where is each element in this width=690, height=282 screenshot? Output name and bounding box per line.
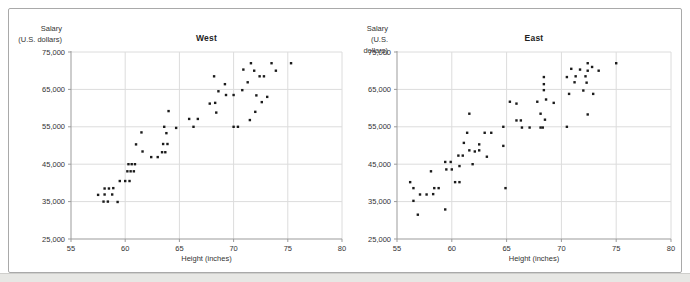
data-point (444, 161, 446, 163)
svg-text:65: 65 (502, 244, 510, 253)
data-point (478, 149, 480, 151)
svg-text:25,000: 25,000 (368, 235, 391, 244)
data-point (108, 187, 110, 189)
data-point (444, 208, 446, 210)
data-point (237, 126, 239, 128)
data-point (539, 113, 541, 115)
data-point (544, 118, 546, 120)
data-point (474, 150, 476, 152)
data-point (175, 127, 177, 129)
data-point (290, 62, 292, 64)
data-point (566, 76, 568, 78)
data-point (566, 126, 568, 128)
data-point (504, 187, 506, 189)
panel-title-east: East (397, 33, 671, 43)
data-point (543, 89, 545, 91)
data-point (520, 119, 522, 121)
data-point (573, 81, 575, 83)
data-point (591, 66, 593, 68)
data-point (451, 168, 453, 170)
data-point (164, 151, 166, 153)
data-point (266, 96, 268, 98)
data-point (246, 81, 248, 83)
data-point (209, 102, 211, 104)
data-point (166, 143, 168, 145)
data-point (275, 70, 277, 72)
data-point (419, 193, 421, 195)
data-point (486, 156, 488, 158)
data-point (116, 201, 118, 203)
data-point (425, 193, 427, 195)
svg-text:65,000: 65,000 (368, 85, 391, 94)
data-point (579, 68, 581, 70)
data-point (103, 193, 105, 195)
svg-text:80: 80 (667, 244, 675, 253)
svg-text:45,000: 45,000 (42, 160, 65, 169)
data-point (150, 156, 152, 158)
data-point (253, 70, 255, 72)
data-point (255, 94, 257, 96)
svg-text:80: 80 (338, 244, 346, 253)
data-point (536, 101, 538, 103)
data-point (468, 113, 470, 115)
data-point (242, 68, 244, 70)
data-point (466, 132, 468, 134)
data-point (107, 200, 109, 202)
svg-text:55,000: 55,000 (368, 122, 391, 131)
data-point (161, 151, 163, 153)
data-point (128, 180, 130, 182)
data-point (215, 111, 217, 113)
data-point (261, 101, 263, 103)
data-point (592, 93, 594, 95)
data-point (131, 163, 133, 165)
data-point (433, 187, 435, 189)
svg-text:70: 70 (557, 244, 565, 253)
data-point (412, 200, 414, 202)
y-axis-title-west: Salary(U.S. dollars) (9, 23, 62, 45)
svg-text:35,000: 35,000 (42, 197, 65, 206)
svg-text:60: 60 (121, 244, 129, 253)
data-point (582, 89, 584, 91)
data-point (584, 75, 586, 77)
scatter-panel-east: 25,00035,00045,00055,00065,00075,0005560… (349, 9, 681, 271)
data-point (135, 143, 137, 145)
data-point (597, 70, 599, 72)
data-point (528, 126, 530, 128)
data-point (213, 75, 215, 77)
data-point (162, 143, 164, 145)
data-point (103, 187, 105, 189)
data-point (587, 62, 589, 64)
data-point (543, 83, 545, 85)
svg-text:35,000: 35,000 (368, 197, 391, 206)
data-point (225, 94, 227, 96)
data-point (521, 126, 523, 128)
data-point (217, 90, 219, 92)
data-point (483, 132, 485, 134)
data-point (432, 193, 434, 195)
data-point (450, 161, 452, 163)
data-point (141, 150, 143, 152)
data-point (254, 111, 256, 113)
y-axis-title-east: Salary(U.S. dollars) (349, 23, 388, 56)
data-point (454, 181, 456, 183)
page-edge-strip (0, 273, 690, 282)
data-point (515, 102, 517, 104)
data-point (502, 145, 504, 147)
data-point (119, 180, 121, 182)
data-point (111, 193, 113, 195)
svg-text:25,000: 25,000 (42, 235, 65, 244)
figure-frame: 25,00035,00045,00055,00065,00075,0005560… (8, 8, 682, 273)
svg-text:60: 60 (448, 244, 456, 253)
svg-text:75,000: 75,000 (42, 48, 65, 57)
data-point (102, 200, 104, 202)
data-point (188, 118, 190, 120)
data-point (553, 102, 555, 104)
data-point (587, 113, 589, 115)
data-point (478, 143, 480, 145)
data-point (568, 93, 570, 95)
data-point (192, 126, 194, 128)
data-point (457, 154, 459, 156)
svg-text:45,000: 45,000 (368, 160, 391, 169)
scatter-panel-west: 25,00035,00045,00055,00065,00075,0005560… (9, 9, 349, 271)
data-point (224, 83, 226, 85)
